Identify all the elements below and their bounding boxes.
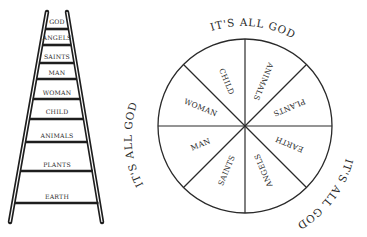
caption-right-text: IT'S ALL GOD [295,158,355,233]
segment-label-child: CHILD [217,67,236,96]
caption-top: IT'S ALL GOD [209,16,298,41]
segment-label-plants: PLANTS [272,97,307,118]
ladder-left-rail [10,12,47,222]
diagram-canvas: GOD ANGELS SAINTS MAN WOMAN CHILD ANIMAL… [0,0,367,237]
caption-left: IT'S ALL GOD [122,100,146,190]
ladder-label-man: MAN [49,69,66,76]
caption-top-text: IT'S ALL GOD [209,16,298,41]
segment-label-angels: ANGELS [252,152,274,189]
ladder-label-angels: ANGELS [42,34,72,41]
ladder-label-saints: SAINTS [44,53,70,60]
segment-label-animals: ANIMALS [252,60,276,102]
segment-label-woman: WOMAN [183,97,219,119]
ladder-label-woman: WOMAN [43,89,72,96]
pie-circle: ANIMALS PLANTS EARTH ANGELS SAINTS MAN W… [122,16,356,233]
arc-captions: IT'S ALL GOD IT'S ALL GOD IT'S ALL GOD [122,16,356,233]
ladder-label-earth: EARTH [45,193,69,200]
ladder-label-plants: PLANTS [43,161,71,168]
caption-left-text: IT'S ALL GOD [122,100,146,190]
ladder-right-rail [67,12,102,222]
segment-label-saints: SAINTS [216,154,237,187]
segment-label-man: MAN [189,136,212,152]
pie-dividers [158,39,332,213]
ladder-label-child: CHILD [46,108,69,115]
ladder-label-animals: ANIMALS [40,132,74,139]
ladder-label-god: GOD [49,18,65,25]
ladder: GOD ANGELS SAINTS MAN WOMAN CHILD ANIMAL… [10,12,102,222]
caption-right: IT'S ALL GOD [295,158,355,233]
segment-label-earth: EARTH [274,135,305,155]
